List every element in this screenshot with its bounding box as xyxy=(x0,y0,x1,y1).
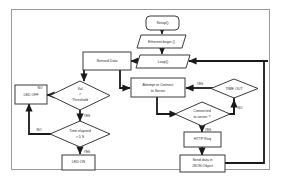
node-sensed-data: Sensed Data xyxy=(83,52,131,70)
node-http-req-label: HTTP Req xyxy=(194,137,211,141)
node-sensed-data-label: Sensed Data xyxy=(97,59,118,63)
edge-label-elapsed-yes: YES xyxy=(84,150,91,154)
node-send-data-label-line2: JSON Object xyxy=(192,164,213,168)
node-connected-decision: Connected to server ? xyxy=(175,102,230,126)
node-led-off-label: LED OFF xyxy=(23,93,39,97)
edge-senddata-return xyxy=(225,61,264,163)
node-loop-label: Loop() xyxy=(158,60,168,64)
node-ethernet-begin: Ethernet.begin () xyxy=(137,35,186,48)
node-timeout-decision: TIME OUT xyxy=(211,79,258,98)
edge-elapsed-no-to-ledoff xyxy=(29,104,55,134)
node-threshold-label-line2: > xyxy=(79,92,81,96)
node-led-on-label: LED ON xyxy=(72,160,86,164)
node-ethernet-begin-label: Ethernet.begin () xyxy=(148,40,175,44)
node-threshold-label-line1: Val xyxy=(78,87,83,91)
node-http-req: HTTP Req xyxy=(184,132,221,147)
node-elapsed-decision: Time elapsed > 5 S xyxy=(50,121,110,147)
node-elapsed-decision-shape xyxy=(50,121,110,147)
node-connected-label-line2: to server ? xyxy=(194,115,211,119)
edge-label-timeout-yes: YES xyxy=(197,82,204,86)
node-attempt-connect-shape xyxy=(131,78,185,97)
node-attempt-label-line1: Attempt to Connect xyxy=(143,83,174,87)
node-threshold-decision: Val > Threshold xyxy=(50,81,110,110)
node-led-on: LED ON xyxy=(62,155,95,170)
edge-sensed-to-attempt xyxy=(120,70,130,88)
node-setup-label: Setup() xyxy=(157,21,169,25)
node-setup: Setup() xyxy=(146,16,179,30)
node-threshold-label-line3: Threshold xyxy=(72,98,88,102)
edge-label-threshold-no: NO xyxy=(38,86,43,90)
node-timeout-label: TIME OUT xyxy=(225,87,243,91)
edge-attempt-to-connected xyxy=(157,97,177,114)
flowchart-canvas: Setup() Ethernet.begin () Loop() Sensed … xyxy=(0,0,283,181)
node-attempt-connect: Attempt to Connect to Server xyxy=(131,78,185,97)
flowchart-page: Setup() Ethernet.begin () Loop() Sensed … xyxy=(0,0,283,181)
node-elapsed-label-line2: > 5 S xyxy=(76,135,85,139)
edge-connected-no-to-timeout xyxy=(227,100,234,114)
edge-label-timeout-no: NO xyxy=(238,106,243,110)
node-loop: Loop() xyxy=(136,55,190,68)
node-connected-label-line1: Connected xyxy=(193,109,210,113)
node-send-data-label-line1: Send data in xyxy=(192,158,212,162)
edge-label-elapsed-no: NO xyxy=(37,128,42,132)
node-send-data: Send data in JSON Object xyxy=(180,155,225,172)
edge-label-connected-yes: YES xyxy=(205,128,212,132)
node-elapsed-label-line1: Time elapsed xyxy=(69,129,90,133)
node-attempt-label-line2: to Server xyxy=(151,89,166,93)
edge-label-threshold-yes: YES xyxy=(84,114,91,118)
